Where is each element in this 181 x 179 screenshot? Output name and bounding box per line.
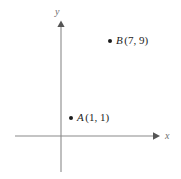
x-axis-arrowhead-icon	[153, 132, 160, 140]
coordinate-plane-figure: y x A(1, 1) B(7, 9)	[0, 0, 181, 179]
point-label-a-coords: (1, 1)	[85, 111, 109, 123]
y-axis-arrowhead-icon	[57, 21, 64, 28]
point-marker-a	[69, 116, 73, 120]
point-label-a-name: A	[77, 111, 85, 123]
point-label-a: A(1, 1)	[77, 112, 109, 123]
point-marker-b	[108, 39, 112, 43]
point-label-b: B(7, 9)	[116, 35, 148, 46]
axes-graphic	[0, 0, 181, 179]
point-label-b-coords: (7, 9)	[124, 34, 148, 46]
x-axis-label: x	[165, 131, 169, 141]
point-label-b-name: B	[116, 34, 124, 46]
y-axis-label: y	[55, 7, 59, 17]
